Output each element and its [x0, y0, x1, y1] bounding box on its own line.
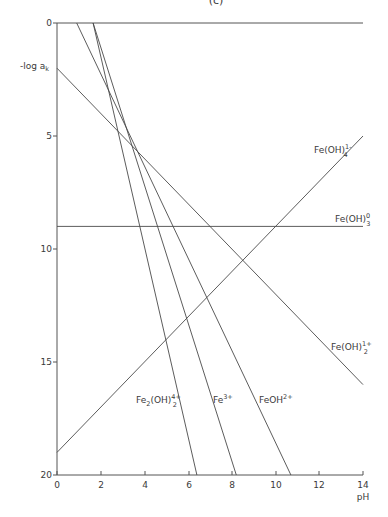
y-ticks — [53, 23, 57, 475]
y-tick-label: 5 — [46, 131, 52, 141]
x-tick-label: 6 — [186, 480, 192, 490]
x-tick-label: 12 — [313, 480, 324, 490]
y-tick-label: 20 — [41, 470, 53, 480]
x-tick-label: 8 — [229, 480, 235, 490]
y-tick-label: 0 — [46, 18, 52, 28]
label-fe2oh2: Fe2(OH)4+2 — [136, 393, 181, 409]
y-axis-label: -log ak — [20, 61, 49, 73]
x-tick-label: 0 — [54, 480, 60, 490]
y-tick-labels: 0 5 10 15 20 — [41, 18, 53, 480]
x-tick-labels: 0 2 4 6 8 10 12 14 — [54, 480, 369, 490]
label-fe-oh3: Fe(OH)03 — [335, 212, 370, 228]
y-tick-label: 15 — [41, 357, 52, 367]
y-tick-label: 10 — [41, 244, 53, 254]
label-feoh: FeOH2+ — [259, 393, 293, 405]
x-ticks — [57, 471, 363, 475]
chart-title: (c) — [209, 0, 224, 7]
label-fe-oh2: Fe(OH)1+2 — [331, 340, 372, 356]
x-tick-label: 4 — [142, 480, 148, 490]
speciation-chart: (c) 0 5 10 15 20 -log ak 0 2 4 — [0, 0, 388, 517]
line-fe3 — [93, 23, 236, 475]
data-lines — [57, 23, 363, 475]
x-tick-label: 2 — [98, 480, 104, 490]
axes — [57, 23, 363, 475]
x-tick-label: 14 — [357, 480, 369, 490]
x-tick-label: 10 — [270, 480, 282, 490]
label-fe3: Fe3+ — [213, 393, 233, 405]
line-fe2oh2 — [93, 23, 197, 475]
line-fe-oh4 — [57, 136, 363, 452]
label-fe-oh4: Fe(OH)1-4 — [314, 143, 352, 159]
x-axis-label: pH — [357, 492, 369, 502]
